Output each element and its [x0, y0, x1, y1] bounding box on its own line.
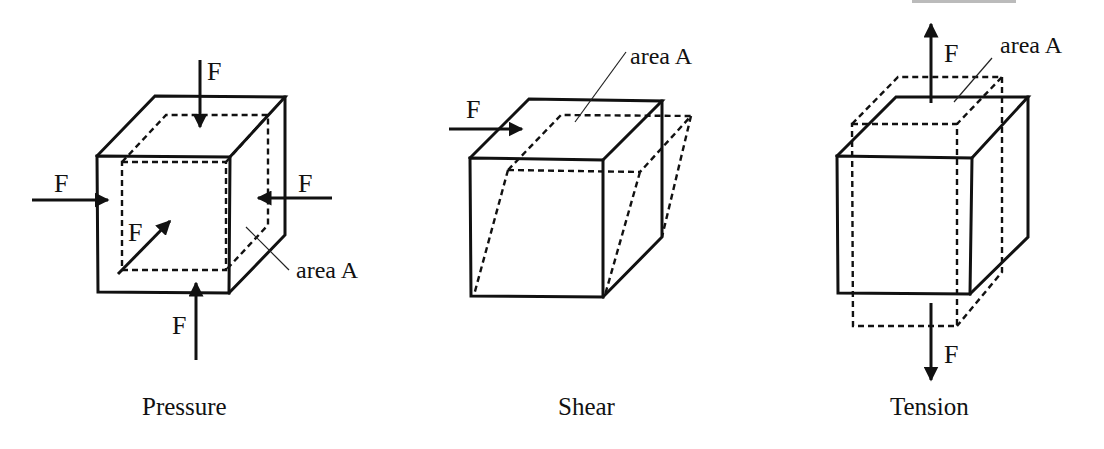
force-label-bottom: F [944, 340, 958, 369]
stress-types-figure: F F F F F area A Pressure F area A Shear [0, 0, 1104, 449]
force-label-right: F [298, 169, 312, 198]
area-leader-line [246, 227, 289, 270]
pressure-cube [97, 96, 285, 293]
force-label-bottom: F [172, 311, 186, 340]
force-label-top: F [207, 57, 221, 86]
area-leader-line [575, 52, 626, 122]
tension-cube [837, 97, 1028, 294]
area-label: area A [1000, 32, 1063, 58]
caption-tension: Tension [890, 393, 969, 420]
area-leader-line [954, 58, 992, 102]
force-label-left: F [54, 169, 68, 198]
force-label-front: F [128, 218, 142, 247]
force-label: F [466, 95, 480, 124]
force-label-top: F [944, 39, 958, 68]
area-label: area A [296, 257, 359, 283]
caption-pressure: Pressure [142, 393, 227, 420]
tension-elongated-outline [852, 77, 1002, 326]
cropped-header-fragment [912, 0, 1016, 3]
tension-panel: F F area A Tension [837, 24, 1063, 420]
caption-shear: Shear [558, 393, 616, 420]
force-arrow-front [118, 221, 170, 274]
shear-panel: F area A Shear [449, 43, 693, 420]
area-label: area A [630, 43, 693, 69]
shear-deformed-outline [474, 115, 691, 295]
pressure-panel: F F F F F area A Pressure [32, 57, 359, 420]
